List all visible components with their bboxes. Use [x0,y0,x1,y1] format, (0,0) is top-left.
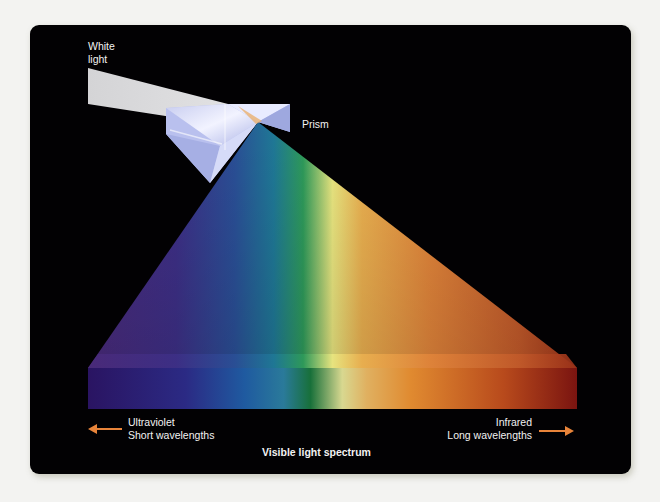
short-wavelengths-label: Short wavelengths [128,429,214,442]
infrared-label-line1: Infrared [412,416,532,429]
spectrum-bar [88,368,577,409]
left-arrow-icon [88,424,122,434]
spectrum-bar-top [88,354,577,368]
caption-visible-light-spectrum: Visible light spectrum [262,446,371,459]
white-light-label-line1: White [88,40,115,53]
prism-dispersion-illustration [0,0,660,502]
ultraviolet-label: Ultraviolet Short wavelengths [128,416,214,442]
ultraviolet-label-line1: Ultraviolet [128,416,214,429]
white-light-label: White light [88,40,115,66]
infrared-label: Infrared Long wavelengths [412,416,532,442]
right-arrow-icon [539,426,574,436]
prism-label: Prism [302,118,329,131]
long-wavelengths-label: Long wavelengths [412,429,532,442]
white-light-label-line2: light [88,53,115,66]
